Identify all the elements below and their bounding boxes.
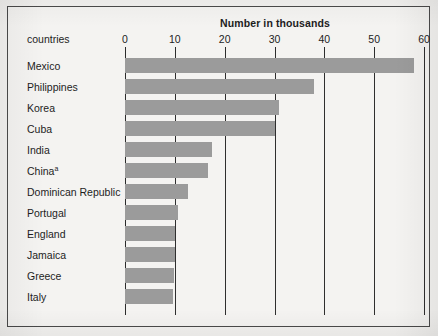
bar-row	[125, 79, 424, 94]
x-tick-label: 30	[269, 33, 281, 45]
x-tick-label: 40	[318, 33, 330, 45]
bar	[125, 289, 173, 304]
bar-row	[125, 58, 424, 73]
chart-title: Number in thousands	[125, 17, 425, 29]
category-axis-header: countries	[27, 33, 70, 45]
bar-row	[125, 142, 424, 157]
bar	[125, 205, 178, 220]
category-label: Chinaa	[27, 165, 58, 177]
bar-row	[125, 184, 424, 199]
x-tick-label: 20	[219, 33, 231, 45]
category-label: Mexico	[27, 60, 60, 72]
bar	[125, 100, 279, 115]
category-label: Greece	[27, 270, 61, 282]
x-tick-label: 50	[368, 33, 380, 45]
category-label: Korea	[27, 102, 55, 114]
chart-page: Number in thousands countries 0102030405…	[0, 0, 438, 336]
bar-row	[125, 289, 424, 304]
category-label: Italy	[27, 291, 46, 303]
category-label: Jamaica	[27, 249, 66, 261]
bar-row	[125, 163, 424, 178]
bar	[125, 226, 175, 241]
bar	[125, 79, 314, 94]
bar	[125, 121, 275, 136]
category-label: Cuba	[27, 123, 52, 135]
bar-row	[125, 247, 424, 262]
x-tick-label: 0	[122, 33, 128, 45]
gridline	[424, 52, 425, 315]
bar	[125, 184, 188, 199]
bar-row	[125, 268, 424, 283]
bar	[125, 58, 414, 73]
bar-row	[125, 100, 424, 115]
bar-row	[125, 226, 424, 241]
category-label: Philippines	[27, 81, 78, 93]
bar-row	[125, 121, 424, 136]
chart-frame: Number in thousands countries 0102030405…	[7, 6, 430, 327]
bar	[125, 268, 174, 283]
category-label: India	[27, 144, 50, 156]
category-label: England	[27, 228, 66, 240]
bar	[125, 142, 212, 157]
x-tick-label: 60	[418, 33, 430, 45]
plot-area	[125, 52, 424, 315]
x-tick-label: 10	[169, 33, 181, 45]
bar	[125, 247, 175, 262]
category-label: Portugal	[27, 207, 66, 219]
category-label: Dominican Republic	[27, 186, 120, 198]
bar-row	[125, 205, 424, 220]
footnote-marker: a	[54, 165, 58, 172]
bar	[125, 163, 208, 178]
